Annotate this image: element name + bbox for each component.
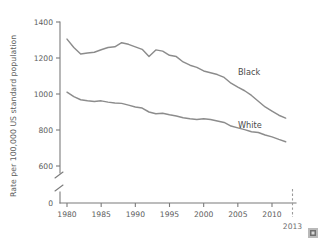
x-tick-label-1985: 1985 — [92, 210, 111, 219]
tick-marks — [56, 22, 272, 207]
x-tick-label-2010: 2010 — [262, 210, 281, 219]
x-tick-label-1995: 1995 — [160, 210, 179, 219]
x-tick-label-2005: 2005 — [228, 210, 247, 219]
y-tick-label-800: 800 — [39, 126, 54, 135]
y-tick-label-1000: 1000 — [34, 90, 53, 99]
y-tick-label-1400: 1400 — [34, 18, 53, 27]
y-axis-tick-labels: 0600800100012001400 — [34, 18, 53, 208]
end-year-marker-label: 2013 — [283, 222, 302, 231]
series-line-white — [67, 92, 286, 142]
x-tick-label-1990: 1990 — [126, 210, 145, 219]
series-line-black — [67, 39, 286, 118]
y-axis-break-mark — [55, 172, 63, 191]
x-axis-tick-labels: 1980198519901995200020052010 — [57, 210, 281, 219]
series-label-white: White — [238, 120, 262, 130]
x-tick-label-2000: 2000 — [194, 210, 213, 219]
chart-container: 0600800100012001400 19801985199019952000… — [0, 0, 328, 249]
y-axis-title: Rate per 100,000 US standard population — [9, 35, 18, 197]
y-tick-label-1200: 1200 — [34, 54, 53, 63]
y-tick-label-0: 0 — [48, 199, 53, 208]
annotations: 2013 — [283, 189, 302, 231]
line-chart: 0600800100012001400 19801985199019952000… — [0, 0, 328, 249]
series-label-black: Black — [238, 67, 260, 77]
series-labels: BlackWhite — [238, 67, 262, 130]
x-tick-label-1980: 1980 — [57, 210, 76, 219]
axes — [55, 22, 296, 203]
y-tick-label-600: 600 — [39, 162, 54, 171]
image-placeholder-glyph — [308, 228, 318, 238]
